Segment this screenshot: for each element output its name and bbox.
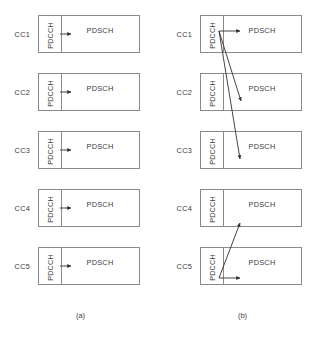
panel-b-cross-carrier-scheduling: CC1 PDCCH PDSCH CC2 PDCCH PDSCH CC3 PDCC…: [162, 0, 323, 337]
cc-label: CC3: [4, 131, 30, 169]
cc-box: PDCCH PDSCH: [200, 131, 302, 169]
pdcch-region: PDCCH: [201, 132, 223, 170]
pdcch-label: PDCCH: [46, 138, 55, 165]
cc-box: PDCCH PDSCH: [38, 131, 140, 169]
pdsch-label: PDSCH: [61, 132, 139, 170]
cc-box: PDCCH PDSCH: [38, 189, 140, 227]
pdsch-label: PDSCH: [61, 74, 139, 112]
pdcch-region: PDCCH: [39, 248, 61, 286]
cc-box: PDCCH PDSCH: [200, 189, 302, 227]
cc-row: CC5 PDCCH PDSCH: [162, 247, 323, 285]
pdcch-label: PDCCH: [208, 254, 217, 281]
pdcch-region: PDCCH: [39, 74, 61, 112]
cc-label: CC2: [4, 73, 30, 111]
cc-row: CC1 PDCCH PDSCH: [0, 15, 161, 53]
cc-row: CC5 PDCCH PDSCH: [0, 247, 161, 285]
cc-box: PDCCH PDSCH: [38, 15, 140, 53]
pdcch-label: PDCCH: [208, 22, 217, 49]
pdsch-label: PDSCH: [223, 16, 301, 54]
cc-box: PDCCH PDSCH: [200, 15, 302, 53]
pdsch-label: PDSCH: [223, 74, 301, 112]
cc-box: PDCCH PDSCH: [38, 247, 140, 285]
pdsch-label: PDSCH: [61, 248, 139, 286]
cc-label: CC2: [166, 73, 192, 111]
pdsch-label: PDSCH: [223, 132, 301, 170]
cc-row: CC2 PDCCH PDSCH: [0, 73, 161, 111]
pdcch-region: PDCCH: [201, 190, 223, 228]
pdcch-label: PDCCH: [46, 80, 55, 107]
cc-box: PDCCH PDSCH: [200, 247, 302, 285]
cross-carrier-scheduling-figure: CC1 PDCCH PDSCH CC2 PDCCH PDSCH CC3 PDCC…: [0, 0, 323, 337]
cc-label: CC5: [4, 247, 30, 285]
pdcch-region: PDCCH: [201, 16, 223, 54]
pdcch-label: PDCCH: [46, 254, 55, 281]
cc-label: CC4: [166, 189, 192, 227]
cc-label: CC1: [166, 15, 192, 53]
cc-box: PDCCH PDSCH: [38, 73, 140, 111]
pdsch-label: PDSCH: [61, 16, 139, 54]
cc-row: CC3 PDCCH PDSCH: [162, 131, 323, 169]
pdcch-label: PDCCH: [208, 196, 217, 223]
panel-caption-b: (b): [162, 311, 323, 320]
cc-row: CC2 PDCCH PDSCH: [162, 73, 323, 111]
pdcch-region: PDCCH: [39, 132, 61, 170]
pdsch-label: PDSCH: [223, 190, 301, 228]
cc-label: CC5: [166, 247, 192, 285]
cc-row: CC1 PDCCH PDSCH: [162, 15, 323, 53]
pdcch-label: PDCCH: [46, 196, 55, 223]
cc-label: CC1: [4, 15, 30, 53]
pdcch-region: PDCCH: [201, 248, 223, 286]
pdcch-region: PDCCH: [39, 16, 61, 54]
cc-label: CC3: [166, 131, 192, 169]
panel-caption-a: (a): [0, 311, 161, 320]
cc-row: CC4 PDCCH PDSCH: [162, 189, 323, 227]
cc-box: PDCCH PDSCH: [200, 73, 302, 111]
pdsch-label: PDSCH: [223, 248, 301, 286]
cc-row: CC3 PDCCH PDSCH: [0, 131, 161, 169]
pdcch-label: PDCCH: [208, 138, 217, 165]
pdsch-label: PDSCH: [61, 190, 139, 228]
panel-a-self-scheduling: CC1 PDCCH PDSCH CC2 PDCCH PDSCH CC3 PDCC…: [0, 0, 161, 337]
pdcch-label: PDCCH: [46, 22, 55, 49]
cc-row: CC4 PDCCH PDSCH: [0, 189, 161, 227]
pdcch-label: PDCCH: [208, 80, 217, 107]
pdcch-region: PDCCH: [201, 74, 223, 112]
cc-label: CC4: [4, 189, 30, 227]
pdcch-region: PDCCH: [39, 190, 61, 228]
